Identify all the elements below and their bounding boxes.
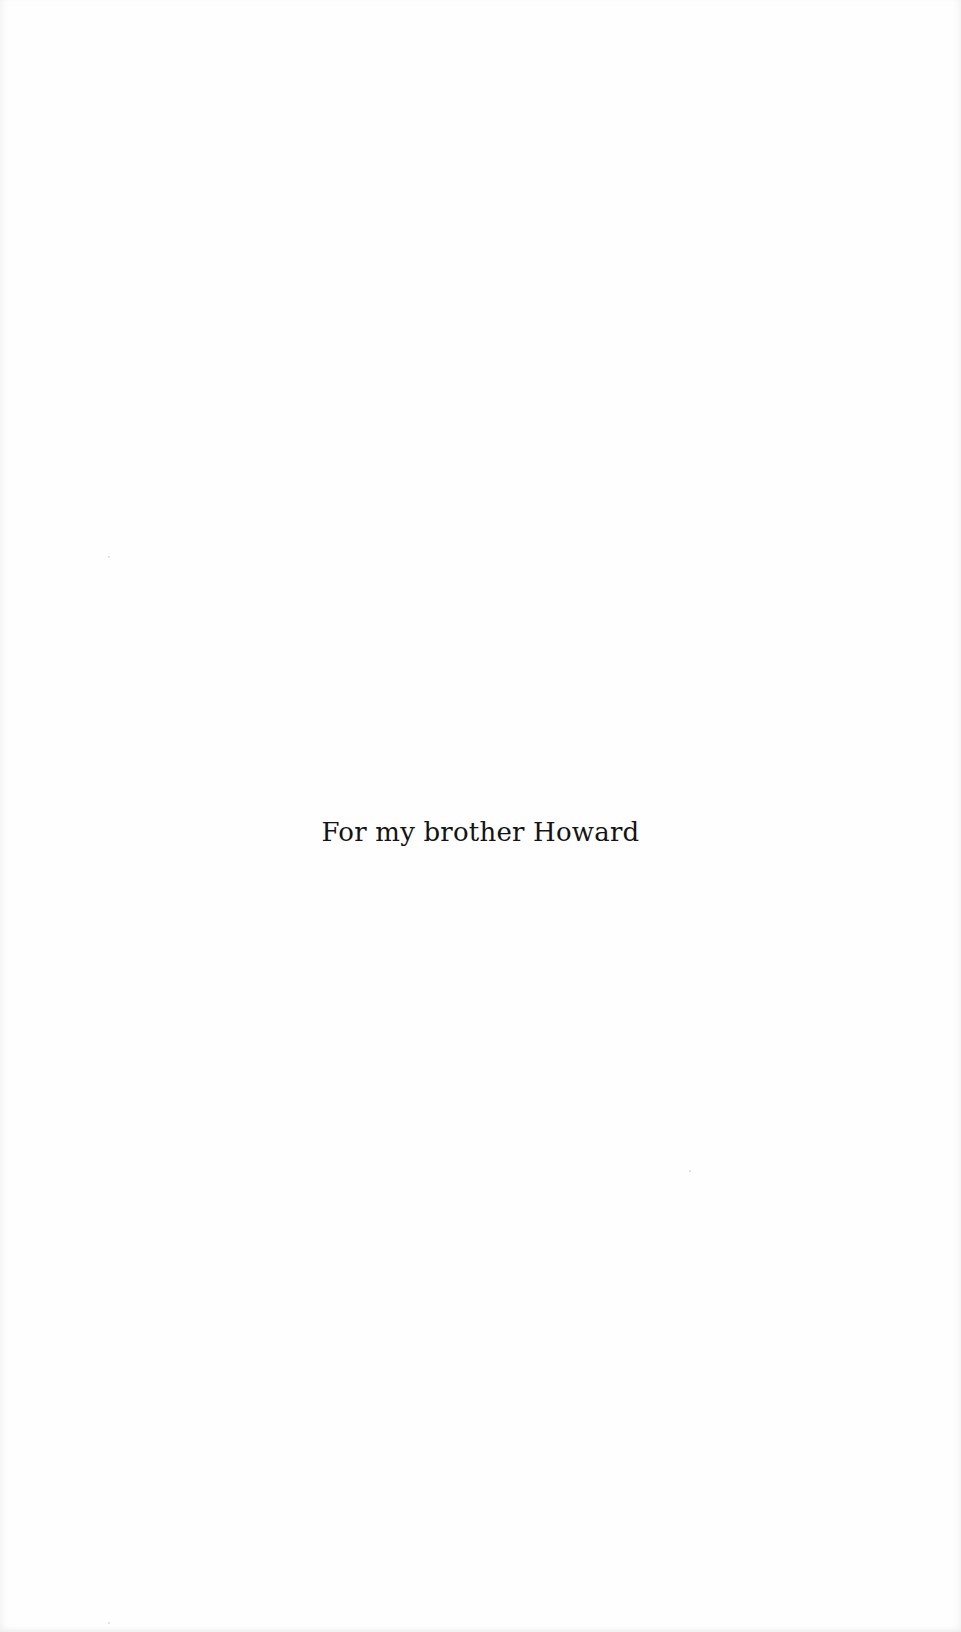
scan-speck xyxy=(108,1622,110,1624)
book-page: For my brother Howard xyxy=(0,0,961,1632)
scan-speck xyxy=(108,556,110,558)
dedication-text: For my brother Howard xyxy=(0,812,961,852)
scan-speck xyxy=(689,1170,691,1172)
